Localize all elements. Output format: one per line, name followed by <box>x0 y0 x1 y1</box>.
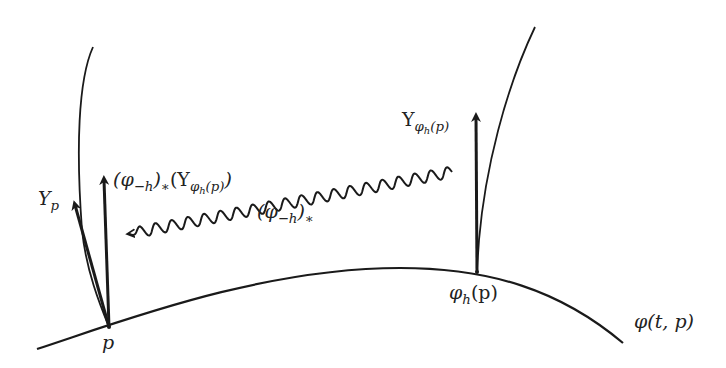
vector-Y-phi-h-p <box>476 117 477 272</box>
flow-pushforward-diagram: p φh(p) φ(t, p) Yp Yφh(p) (φ−h)∗(Yφh(p))… <box>0 0 726 368</box>
vector-pushforward <box>104 180 109 327</box>
label-Y-phi-h-p: Yφh(p) <box>402 110 449 136</box>
diagram-svg <box>0 0 726 368</box>
point-p <box>107 325 111 329</box>
label-phi-h-p: φh(p) <box>449 283 498 306</box>
point-phi-h-p <box>475 270 479 274</box>
label-pushforward-map: (φ−h)∗ <box>257 202 314 225</box>
label-p: p <box>102 333 114 352</box>
label-phi-t-p: φ(t, p) <box>634 312 694 331</box>
right-fiber-curve <box>477 27 535 272</box>
label-Y-p: Yp <box>38 189 59 212</box>
label-pushforward-vector: (φ−h)∗(Yφh(p)) <box>113 170 232 196</box>
integral-curve <box>37 268 623 349</box>
vector-Y-p <box>75 205 109 327</box>
